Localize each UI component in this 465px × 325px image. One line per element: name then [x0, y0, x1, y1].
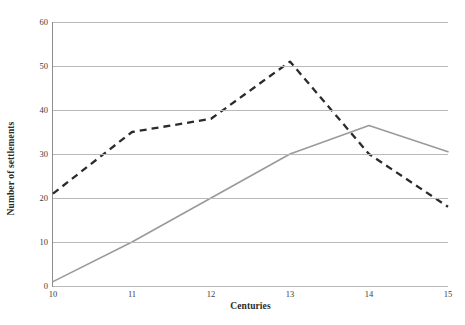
x-tick-12: 12 [196, 290, 226, 299]
x-tick-14: 14 [354, 290, 384, 299]
x-tick-15: 15 [433, 290, 463, 299]
x-tick-13: 13 [275, 290, 305, 299]
x-axis-title: Centuries [53, 301, 448, 311]
x-tick-10: 10 [38, 290, 68, 299]
line-chart: Number of settlements 60 50 40 30 20 10 … [0, 0, 465, 325]
x-tick-11: 11 [117, 290, 147, 299]
x-axis-tick-labels: 10 11 12 13 14 15 [0, 0, 465, 325]
